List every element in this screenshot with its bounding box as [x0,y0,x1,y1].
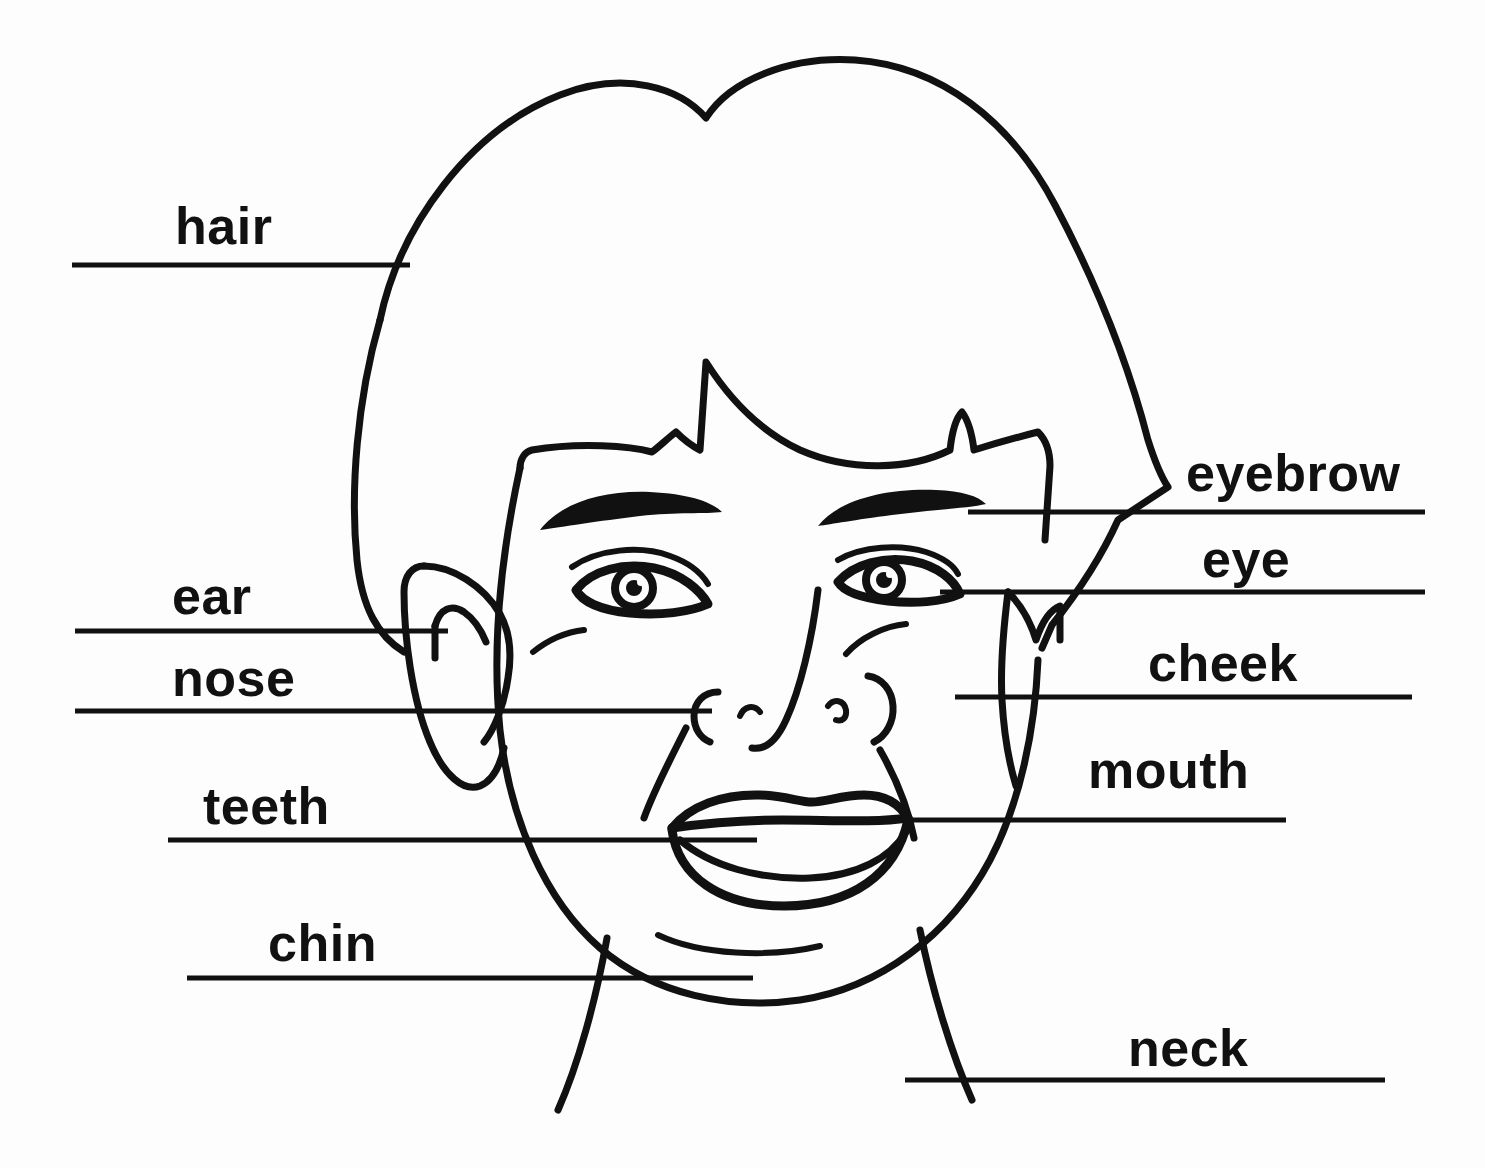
left-ear-inner-fold [435,608,486,642]
label-nose: nose [172,652,295,704]
right-eyebrow [818,490,986,526]
left-eye-highlight [637,578,645,586]
label-neck: neck [1128,1022,1249,1074]
nose-bridge [752,590,818,748]
label-cheek: cheek [1148,637,1298,689]
label-hair: hair [175,200,272,252]
right-eye-highlight [886,570,894,578]
neck-left [558,938,607,1110]
face-parts-diagram: hairearnoseteethchineyebroweyecheekmouth… [0,0,1485,1168]
nose-right-nostril [828,701,846,720]
face-jaw-outline [497,468,1038,1003]
hair-left-edge [354,320,404,652]
left-cheek-crease [533,630,584,652]
label-mouth: mouth [1088,744,1249,796]
label-eye: eye [1202,533,1290,585]
nose-right-wing [868,676,893,742]
chin-crease [658,935,820,953]
nose-left-wing [694,692,718,742]
neck-right [920,930,972,1100]
hair-outline [380,60,1168,648]
right-cheek-crease [846,624,906,654]
left-smile-line [644,728,686,818]
label-ear: ear [172,570,252,622]
nose-left-nostril [740,707,760,716]
label-chin: chin [268,917,377,969]
left-eyebrow [540,492,722,530]
label-eyebrow: eyebrow [1186,447,1400,499]
right-ear-outline [1001,592,1016,786]
label-teeth: teeth [203,780,330,832]
